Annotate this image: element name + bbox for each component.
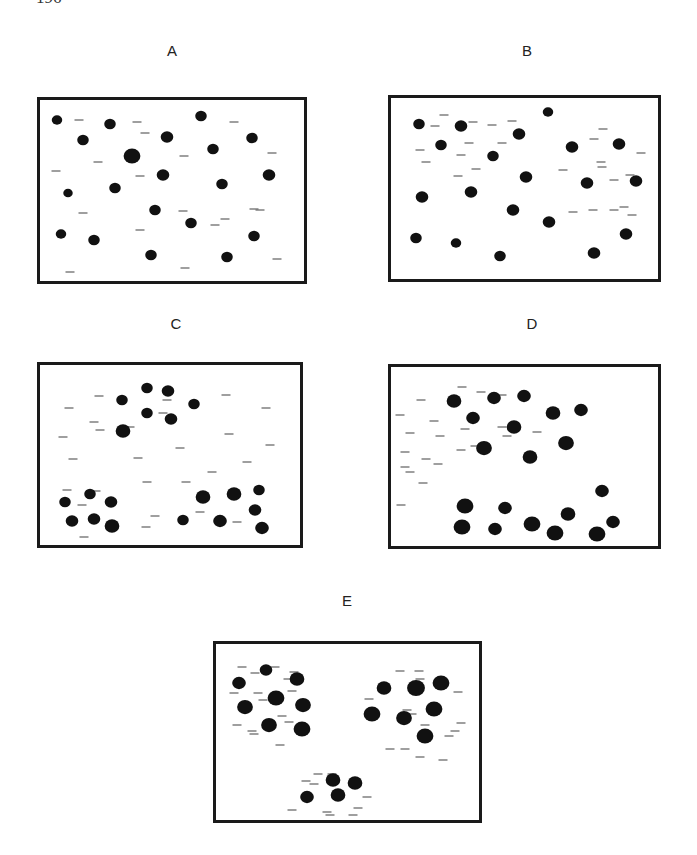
dot-particle <box>513 128 526 139</box>
dot-particle <box>435 140 447 150</box>
dot-particle <box>466 412 480 424</box>
dot-particle <box>454 519 471 534</box>
dot-particle <box>216 179 228 189</box>
dot-particle <box>566 141 579 152</box>
dot-particle <box>116 395 128 405</box>
dot-particle <box>487 151 499 161</box>
dot-particle <box>105 519 120 532</box>
dot-particle <box>195 111 207 121</box>
dot-particle <box>253 485 265 495</box>
dot-particle <box>407 680 425 696</box>
panel-d-drawing <box>391 367 658 546</box>
dot-particle <box>606 516 620 528</box>
dot-particle <box>517 390 531 402</box>
dot-particle <box>417 728 434 743</box>
dot-particle <box>377 681 392 694</box>
dot-particle <box>498 502 512 514</box>
dot-particle <box>294 721 311 736</box>
dot-particle <box>161 131 174 142</box>
dot-particle <box>465 186 478 197</box>
panel-d-frame <box>388 364 661 549</box>
panel-label-b: B <box>522 42 532 59</box>
dot-particle <box>520 171 533 182</box>
dot-particle <box>494 251 506 261</box>
dot-particle <box>141 383 153 393</box>
dot-particle <box>561 507 576 520</box>
dot-particle <box>331 788 346 801</box>
dot-particle <box>227 487 242 500</box>
dot-particle <box>426 701 443 716</box>
dot-particle <box>56 229 67 239</box>
dot-particle <box>457 498 474 513</box>
dot-particle <box>507 420 522 433</box>
dot-particle <box>52 115 63 125</box>
dot-particle <box>261 718 277 732</box>
panel-label-d: D <box>527 315 538 332</box>
dot-particle <box>232 677 246 689</box>
dot-particle <box>185 218 197 228</box>
dot-particle <box>290 672 305 685</box>
panel-b-frame <box>388 95 661 282</box>
dot-particle <box>523 450 538 463</box>
dot-particle <box>188 399 200 409</box>
panel-label-a: A <box>167 42 177 59</box>
page-number: 196 <box>36 0 62 8</box>
dot-particle <box>248 231 260 241</box>
dot-particle <box>105 496 118 507</box>
dot-particle <box>326 773 341 786</box>
dot-particle <box>588 247 601 258</box>
dot-particle <box>207 144 219 154</box>
dot-particle <box>546 406 561 419</box>
panel-e-frame <box>213 641 482 823</box>
dot-particle <box>221 252 233 262</box>
dot-particle <box>410 233 422 243</box>
dot-particle <box>581 177 594 188</box>
dot-particle <box>476 441 492 455</box>
panel-c-frame <box>37 362 303 548</box>
panel-label-e: E <box>342 592 352 609</box>
dot-particle <box>524 516 541 531</box>
dot-particle <box>620 228 633 239</box>
dot-particle <box>268 690 285 705</box>
dot-particle <box>162 385 175 396</box>
panel-a-drawing <box>40 100 304 281</box>
dot-particle <box>213 515 227 527</box>
dot-particle <box>165 413 178 424</box>
dot-particle <box>543 216 556 227</box>
dot-particle <box>157 169 170 180</box>
dot-particle <box>124 148 141 163</box>
dot-particle <box>300 791 314 803</box>
dot-particle <box>413 119 425 129</box>
dot-particle <box>237 700 253 714</box>
dot-particle <box>574 404 588 416</box>
panel-b-drawing <box>391 98 658 279</box>
dot-particle <box>246 133 258 143</box>
dot-particle <box>66 515 79 526</box>
dot-particle <box>613 138 626 149</box>
dot-particle <box>196 490 211 503</box>
dot-particle <box>558 436 574 450</box>
dot-particle <box>447 394 462 407</box>
dot-particle <box>295 698 311 712</box>
dot-particle <box>595 485 609 497</box>
dot-particle <box>77 135 89 145</box>
dot-particle <box>141 408 153 418</box>
dot-particle <box>116 424 131 437</box>
dot-particle <box>416 191 429 202</box>
dot-particle <box>396 711 412 725</box>
dot-particle <box>364 706 381 721</box>
dot-particle <box>63 189 72 198</box>
dot-particle <box>88 513 101 524</box>
dot-particle <box>348 776 363 789</box>
panel-c-drawing <box>40 365 300 545</box>
dot-particle <box>547 525 564 540</box>
dot-particle <box>260 664 273 675</box>
dot-particle <box>487 392 501 404</box>
dot-particle <box>59 497 71 507</box>
dot-particle <box>109 183 121 193</box>
dot-particle <box>543 107 554 117</box>
dot-particle <box>433 675 450 690</box>
dot-particle <box>177 515 189 525</box>
dot-particle <box>88 235 100 245</box>
dot-particle <box>455 120 468 131</box>
